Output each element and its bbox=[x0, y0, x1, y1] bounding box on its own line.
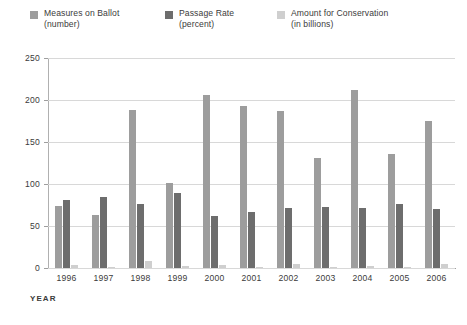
bar-group-bars bbox=[196, 58, 233, 268]
y-tick: 50 bbox=[0, 222, 48, 231]
x-tick-label: 1999 bbox=[159, 272, 196, 286]
y-tick-label: 150 bbox=[25, 138, 40, 147]
y-tick: 150 bbox=[0, 138, 48, 147]
x-axis-labels: 1996199719981999200020012002200320042005… bbox=[48, 272, 455, 286]
legend-item-text: Amount for Conservation(in billions) bbox=[291, 8, 388, 30]
bar[interactable] bbox=[182, 266, 189, 268]
y-tick: 200 bbox=[0, 96, 48, 105]
bar[interactable] bbox=[441, 264, 448, 268]
bar[interactable] bbox=[277, 111, 284, 268]
bar[interactable] bbox=[92, 215, 99, 268]
bar-group-bars bbox=[159, 58, 196, 268]
x-tick-label: 1998 bbox=[122, 272, 159, 286]
bar-group-bars bbox=[122, 58, 159, 268]
x-tick-label: 2001 bbox=[233, 272, 270, 286]
bar[interactable] bbox=[367, 266, 374, 268]
bar-group bbox=[196, 58, 233, 268]
legend-item[interactable]: Passage Rate(percent) bbox=[165, 8, 234, 30]
bar[interactable] bbox=[248, 212, 255, 268]
bar-group bbox=[48, 58, 85, 268]
bar-group bbox=[307, 58, 344, 268]
legend-swatch-amount bbox=[277, 11, 285, 19]
x-tick-label: 1996 bbox=[48, 272, 85, 286]
bar[interactable] bbox=[330, 267, 337, 268]
bar[interactable] bbox=[211, 216, 218, 268]
bar-groups bbox=[48, 58, 455, 268]
x-tick-label: 2003 bbox=[307, 272, 344, 286]
bar-group-bars bbox=[418, 58, 455, 268]
bar[interactable] bbox=[129, 110, 136, 268]
y-tick-label: 100 bbox=[25, 180, 40, 189]
bar-group bbox=[122, 58, 159, 268]
bar[interactable] bbox=[100, 197, 107, 268]
x-tick-label: 2005 bbox=[381, 272, 418, 286]
bar[interactable] bbox=[219, 265, 226, 268]
bar[interactable] bbox=[388, 154, 395, 268]
y-tick-label: 0 bbox=[35, 264, 40, 273]
bar-group bbox=[159, 58, 196, 268]
legend-swatch-measures bbox=[30, 11, 38, 19]
x-tick-label: 2000 bbox=[196, 272, 233, 286]
y-tick-label: 250 bbox=[25, 54, 40, 63]
bar[interactable] bbox=[285, 208, 292, 268]
legend-item-text: Passage Rate(percent) bbox=[179, 8, 234, 30]
bar-group-bars bbox=[381, 58, 418, 268]
bar[interactable] bbox=[203, 95, 210, 268]
bar-group-bars bbox=[48, 58, 85, 268]
legend-swatch-passage bbox=[165, 11, 173, 19]
x-tick-label: 2006 bbox=[418, 272, 455, 286]
chart-legend: Measures on Ballot(number)Passage Rate(p… bbox=[0, 8, 467, 42]
bar[interactable] bbox=[425, 121, 432, 268]
y-tick: 100 bbox=[0, 180, 48, 189]
bar-group-bars bbox=[344, 58, 381, 268]
bar-group-bars bbox=[307, 58, 344, 268]
bar[interactable] bbox=[55, 206, 62, 268]
bar[interactable] bbox=[137, 204, 144, 268]
bar[interactable] bbox=[240, 106, 247, 268]
y-tick-label: 200 bbox=[25, 96, 40, 105]
y-tick-label: 50 bbox=[30, 222, 40, 231]
legend-item-label: Passage Rate bbox=[179, 8, 234, 18]
y-axis-labels: 050100150200250 bbox=[0, 58, 48, 269]
bar[interactable] bbox=[404, 267, 411, 268]
bar[interactable] bbox=[359, 208, 366, 268]
bar[interactable] bbox=[314, 158, 321, 268]
legend-item[interactable]: Measures on Ballot(number) bbox=[30, 8, 119, 30]
x-tick-label: 2004 bbox=[344, 272, 381, 286]
legend-item-unit: (percent) bbox=[179, 19, 234, 30]
bar[interactable] bbox=[174, 193, 181, 268]
legend-item-label: Measures on Ballot bbox=[44, 8, 119, 18]
legend-item[interactable]: Amount for Conservation(in billions) bbox=[277, 8, 388, 30]
y-tick: 0 bbox=[0, 264, 48, 273]
bar-group bbox=[418, 58, 455, 268]
bar-group-bars bbox=[85, 58, 122, 268]
bar[interactable] bbox=[145, 261, 152, 268]
bar-group bbox=[344, 58, 381, 268]
y-tick: 250 bbox=[0, 54, 48, 63]
bar-group-bars bbox=[270, 58, 307, 268]
legend-item-unit: (in billions) bbox=[291, 19, 388, 30]
bar[interactable] bbox=[166, 183, 173, 268]
bar-group-bars bbox=[233, 58, 270, 268]
gridline bbox=[48, 268, 455, 269]
x-tick-label: 1997 bbox=[85, 272, 122, 286]
bar[interactable] bbox=[256, 267, 263, 268]
x-axis-title: YEAR bbox=[30, 294, 57, 303]
bar[interactable] bbox=[108, 267, 115, 268]
bar-group bbox=[381, 58, 418, 268]
x-tick-label: 2002 bbox=[270, 272, 307, 286]
legend-item-label: Amount for Conservation bbox=[291, 8, 388, 18]
bar[interactable] bbox=[396, 204, 403, 268]
bar[interactable] bbox=[322, 207, 329, 268]
legend-item-unit: (number) bbox=[44, 19, 119, 30]
bar[interactable] bbox=[71, 265, 78, 268]
bar[interactable] bbox=[293, 264, 300, 268]
bar-group bbox=[233, 58, 270, 268]
legend-item-text: Measures on Ballot(number) bbox=[44, 8, 119, 30]
bar-group bbox=[270, 58, 307, 268]
bar-group bbox=[85, 58, 122, 268]
bar[interactable] bbox=[351, 90, 358, 268]
bar[interactable] bbox=[433, 209, 440, 268]
bar[interactable] bbox=[63, 200, 70, 268]
chart-plot-area: 050100150200250 199619971998199920002001… bbox=[0, 52, 467, 282]
